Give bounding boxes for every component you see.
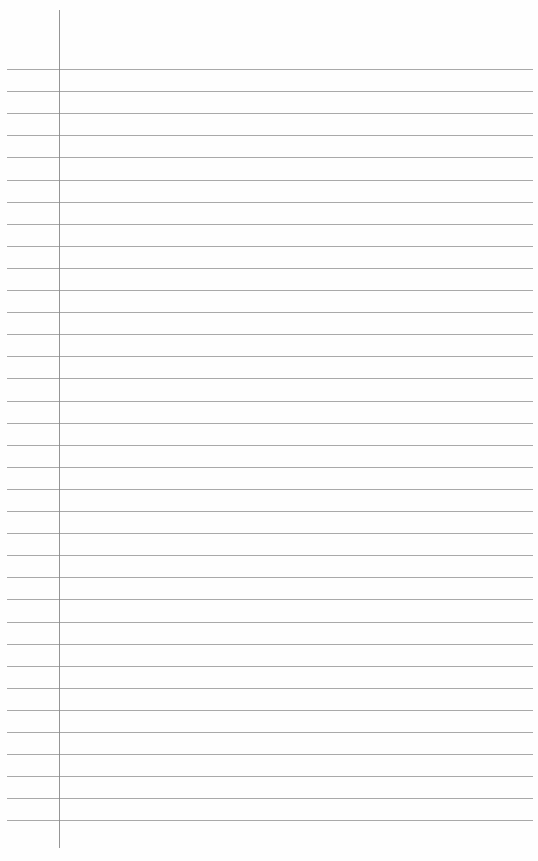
- ruled-line: [7, 423, 533, 424]
- ruled-line: [7, 710, 533, 711]
- ruled-line: [7, 754, 533, 755]
- ruled-line: [7, 489, 533, 490]
- ruled-line: [7, 732, 533, 733]
- ruled-line: [7, 798, 533, 799]
- ruled-line: [7, 246, 533, 247]
- ruled-line: [7, 644, 533, 645]
- ruled-line: [7, 356, 533, 357]
- lined-paper-page: [0, 0, 538, 861]
- ruled-line: [7, 401, 533, 402]
- ruled-line: [7, 445, 533, 446]
- ruled-line: [7, 820, 533, 821]
- ruled-line: [7, 776, 533, 777]
- ruled-line: [7, 69, 533, 70]
- ruled-line: [7, 622, 533, 623]
- ruled-line: [7, 135, 533, 136]
- ruled-line: [7, 312, 533, 313]
- ruled-line: [7, 533, 533, 534]
- ruled-line: [7, 555, 533, 556]
- ruled-line: [7, 180, 533, 181]
- ruled-line: [7, 157, 533, 158]
- ruled-line: [7, 113, 533, 114]
- ruled-line: [7, 91, 533, 92]
- ruled-line: [7, 378, 533, 379]
- ruled-line: [7, 666, 533, 667]
- ruled-line: [7, 511, 533, 512]
- ruled-line: [7, 224, 533, 225]
- ruled-line: [7, 268, 533, 269]
- ruled-line: [7, 688, 533, 689]
- ruled-line: [7, 577, 533, 578]
- ruled-line: [7, 467, 533, 468]
- ruled-line: [7, 334, 533, 335]
- ruled-line: [7, 290, 533, 291]
- ruled-line: [7, 599, 533, 600]
- ruled-line: [7, 202, 533, 203]
- margin-line: [59, 10, 60, 848]
